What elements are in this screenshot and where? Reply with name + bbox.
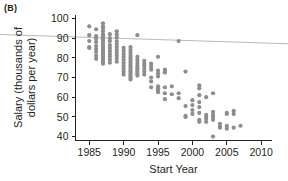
data-point — [122, 72, 126, 76]
y-axis-ticks: 405060708090100 — [51, 12, 76, 142]
data-point — [94, 57, 98, 61]
data-point — [232, 112, 236, 116]
y-axis-title-line-1: Salary (thousands of — [12, 26, 24, 128]
data-point — [197, 111, 201, 115]
data-point — [183, 115, 187, 119]
data-point — [177, 39, 181, 43]
data-point — [156, 74, 160, 78]
data-point — [115, 60, 119, 64]
data-point — [108, 39, 112, 43]
x-tick-label: 2000 — [181, 146, 205, 158]
x-axis-title-group: Start Year — [149, 163, 198, 175]
data-points-group — [87, 21, 243, 138]
data-point — [94, 40, 98, 44]
data-point — [190, 112, 194, 116]
data-point — [197, 86, 201, 90]
data-point — [218, 126, 222, 130]
data-point — [238, 124, 242, 128]
data-point — [211, 118, 215, 122]
data-point — [163, 70, 167, 74]
data-point — [197, 105, 201, 109]
data-point — [177, 96, 181, 100]
data-point — [142, 72, 146, 76]
data-point — [190, 98, 194, 102]
data-point — [115, 35, 119, 39]
y-tick-label: 80 — [57, 52, 69, 64]
data-point — [170, 92, 174, 96]
data-point — [170, 84, 174, 88]
data-point — [163, 85, 167, 89]
data-point — [149, 75, 153, 79]
data-point — [108, 32, 112, 36]
y-tick-label: 60 — [57, 91, 69, 103]
data-point — [163, 97, 167, 101]
scatter-plot: 405060708090100 198519901995200020052010… — [0, 0, 288, 181]
data-point — [211, 91, 215, 95]
x-tick-label: 2010 — [250, 146, 274, 158]
y-tick-label: 40 — [57, 130, 69, 142]
data-point — [128, 77, 132, 81]
y-axis-title-group: Salary (thousands of dollars per year) — [12, 26, 37, 128]
data-point — [197, 93, 201, 97]
data-point — [177, 91, 181, 95]
trend-line-group — [0, 35, 288, 44]
data-point — [211, 134, 215, 138]
x-axis-ticks: 198519901995200020052010 — [78, 141, 273, 158]
data-point — [197, 120, 201, 124]
data-point — [149, 68, 153, 72]
data-point — [149, 85, 153, 89]
data-point — [183, 104, 187, 108]
data-point — [225, 112, 229, 116]
data-point — [190, 103, 194, 107]
data-point — [108, 61, 112, 65]
data-point — [135, 33, 139, 37]
regression-trend-line — [0, 35, 288, 44]
x-axis-title: Start Year — [149, 163, 198, 175]
x-tick-label: 1995 — [146, 146, 170, 158]
data-point — [197, 100, 201, 104]
data-point — [183, 69, 187, 73]
figure-panel-b: (B) 405060708090100 19851990199520002005… — [0, 0, 288, 181]
data-point — [156, 90, 160, 94]
data-point — [149, 79, 153, 83]
x-tick-label: 1985 — [78, 146, 102, 158]
y-tick-label: 50 — [57, 111, 69, 123]
data-point — [87, 24, 91, 28]
data-point — [204, 120, 208, 124]
data-point — [87, 39, 91, 43]
data-point — [163, 91, 167, 95]
x-tick-label: 2005 — [215, 146, 239, 158]
data-point — [135, 73, 139, 77]
data-point — [101, 62, 105, 66]
data-point — [232, 126, 236, 130]
data-point — [87, 46, 91, 50]
data-point — [94, 27, 98, 31]
data-point — [87, 33, 91, 37]
data-point — [225, 127, 229, 131]
y-tick-label: 100 — [51, 12, 69, 24]
data-point — [190, 108, 194, 112]
data-point — [204, 95, 208, 99]
x-tick-label: 1990 — [112, 146, 136, 158]
y-axis-title-line-2: dollars per year) — [25, 38, 37, 117]
data-point — [94, 50, 98, 54]
data-point — [156, 55, 160, 59]
y-tick-label: 70 — [57, 71, 69, 83]
y-tick-label: 90 — [57, 32, 69, 44]
